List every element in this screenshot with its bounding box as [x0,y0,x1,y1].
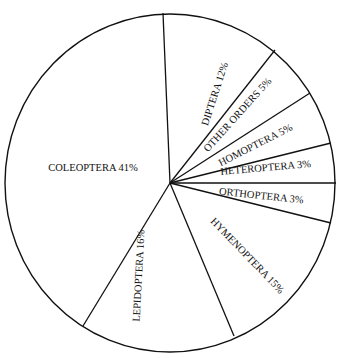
pie-chart: DIPTERA 12%OTHER ORDERS 5%HOMOPTERA 5%HE… [0,0,341,358]
slice-label-coleoptera: COLEOPTERA 41% [48,162,138,173]
